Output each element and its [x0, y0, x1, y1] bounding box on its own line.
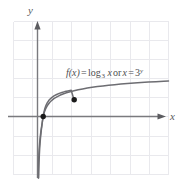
logarithmic-function-figure: y x f(x)=log3 xorx=3y	[0, 0, 185, 190]
equation-log-base: 3	[101, 72, 105, 80]
y-axis-label: y	[28, 5, 33, 16]
equation-equals-sign: =	[80, 67, 88, 78]
axes	[8, 21, 166, 178]
equation-conjunction: or	[112, 67, 123, 78]
plot-area	[0, 0, 185, 190]
y-axis-arrowhead	[34, 21, 40, 30]
plot-point-1-0	[41, 114, 46, 119]
equation-function-name: f(x)	[66, 67, 80, 78]
log-curve	[39, 90, 74, 178]
x-axis-label: x	[170, 111, 175, 122]
log-curve-asymptote-branch	[38, 117, 43, 179]
logarithmic-curve	[38, 92, 74, 178]
grid-lines	[14, 22, 169, 175]
x-axis-arrowhead	[158, 113, 167, 119]
equation-annotation: f(x)=log3 xorx=3y	[66, 68, 143, 80]
equation-inverse-equals-sign: =	[127, 67, 135, 78]
plot-point-3-1	[72, 97, 77, 102]
equation-log-operator: log	[88, 67, 101, 78]
equation-inverse-exponent: y	[140, 67, 143, 75]
